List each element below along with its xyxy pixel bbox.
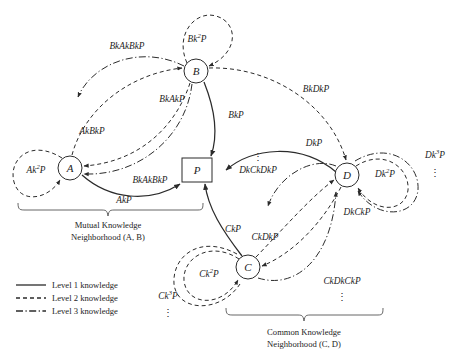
edge-label-dkp: DkP: [305, 138, 323, 148]
brace-mutual: [18, 203, 203, 216]
edge-label-bkakbkp-top: BkAkBkP: [109, 41, 144, 51]
edge-label-bkdkp: BkDkP: [303, 84, 330, 94]
ellipsis-d: ⋮: [430, 167, 440, 178]
edge-b-to-a-level3-upper: [78, 57, 184, 97]
edge-label-ckp: CkP: [225, 224, 241, 234]
node-c-label: C: [244, 261, 252, 273]
self-loop-label-ck2p: Ck2P: [199, 267, 219, 279]
group-label-mutual-line2: Neighborhood (A, B): [71, 232, 145, 242]
edge-label-ckdkp: CkDkP: [252, 232, 279, 242]
group-label-common-line1: Common Knowledge: [267, 327, 341, 337]
self-loop-label-dk3p: Dk3P: [424, 148, 445, 160]
self-loop-label-bk2p: Bk2P: [188, 32, 207, 44]
self-loop-d-level2: [356, 159, 408, 207]
self-loop-c-level2: [184, 251, 239, 300]
group-label-mutual-line1: Mutual Knowledge: [75, 220, 142, 230]
edge-label-bkakbkp-bottom: BkAkBkP: [132, 175, 167, 185]
self-loop-a-level2: [13, 150, 62, 197]
legend-label-level2: Level 2 knowledge: [52, 293, 118, 303]
legend-label-level3: Level 3 knowledge: [52, 306, 118, 316]
group-label-common-line2: Neighborhood (C, D): [267, 339, 341, 349]
node-p-label: P: [193, 164, 201, 176]
edge-d-to-c-level2: [262, 187, 341, 266]
edge-c-to-d-level2: [256, 180, 334, 257]
edge-label-akp: AkP: [115, 195, 132, 205]
diagram-canvas: A B C D P AkP BkP CkP DkP BkAkP AkBkP Bk…: [0, 0, 457, 360]
edge-c-to-p: [205, 184, 242, 256]
knowledge-diagram: A B C D P AkP BkP CkP DkP BkAkP AkBkP Bk…: [0, 0, 457, 360]
edge-d-to-c-level3: [268, 163, 336, 206]
edge-label-akbkp: AkBkP: [78, 126, 105, 136]
node-b-label: B: [193, 65, 200, 77]
edge-b-to-p: [204, 82, 215, 156]
self-loop-label-dk2p: Dk2P: [374, 167, 395, 179]
edge-label-dkckdkp: DkCkDkP: [238, 165, 277, 175]
edge-a-to-b-level2: [72, 68, 182, 155]
self-loop-label-ak2p: Ak2P: [26, 163, 46, 175]
edge-label-ckdkckp: CkDkCkP: [323, 276, 360, 286]
ellipsis-dkckdkp: ⋮: [253, 151, 263, 162]
node-a-label: A: [66, 162, 74, 174]
node-d-label: D: [342, 169, 351, 181]
edge-label-bkp: BkP: [228, 110, 244, 120]
edge-label-dkckp: DkCkP: [343, 207, 371, 217]
edge-label-bkakp: BkAkP: [159, 94, 185, 104]
self-loop-label-ck3p: Ck3P: [158, 289, 178, 301]
brace-common: [226, 308, 383, 321]
ellipsis-ckdkckp: ⋮: [337, 291, 347, 302]
legend-label-level1: Level 1 knowledge: [52, 280, 118, 290]
ellipsis-c: ⋮: [163, 307, 173, 318]
